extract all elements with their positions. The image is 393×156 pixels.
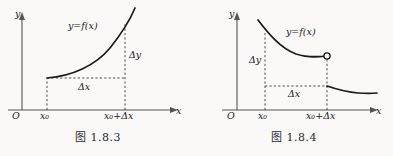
caption-cn-right: 图 [271, 131, 283, 144]
delta-x-label-left: Δx [78, 81, 90, 92]
origin-label: O [227, 110, 235, 121]
caption-figure-1-8-4: 图 1.8.4 [196, 128, 392, 144]
y-axis-label: y [229, 8, 234, 19]
curve-y-equals-f-of-x [47, 8, 135, 78]
caption-cn-left: 图 [75, 131, 87, 144]
tick-label-x0-plus-dx-right: x₀+Δx [306, 110, 335, 121]
x-axis-label: x [376, 105, 381, 116]
y-axis-label: y [15, 8, 20, 19]
delta-x-label-right: Δx [288, 88, 300, 99]
y-axis-arrow-icon [234, 12, 240, 20]
tick-label-x0-right: x₀ [258, 110, 267, 121]
tick-label-x0-left: x₀ [40, 110, 49, 121]
curve-label-right: y=f(x) [286, 26, 316, 37]
delta-y-label-left: Δy [129, 49, 141, 60]
origin-label: O [12, 110, 20, 121]
tick-label-x0-plus-dx-left: x₀+Δx [104, 110, 133, 121]
figure-1-8-3-graphic [0, 0, 196, 128]
delta-y-label-right: Δy [249, 54, 261, 65]
figure-1-8-4: y x O y=f(x) Δy Δx x₀ x₀+Δx 图 1.8.4 [196, 0, 392, 156]
caption-number-right: 1.8.4 [287, 131, 318, 144]
x-axis-label: x [176, 105, 181, 116]
open-circle-discontinuity-icon [324, 53, 330, 59]
figure-1-8-3: y x O y=f(x) Δx Δy x₀ x₀+Δx 图 1.8.3 [0, 0, 196, 156]
figure-1-8-4-graphic [196, 0, 393, 128]
caption-figure-1-8-3: 图 1.8.3 [0, 128, 196, 144]
caption-number-left: 1.8.3 [91, 131, 122, 144]
curve-label-left: y=f(x) [68, 20, 98, 31]
curve-lower-branch [327, 86, 377, 93]
figure-page: y x O y=f(x) Δx Δy x₀ x₀+Δx 图 1.8.3 [0, 0, 393, 156]
